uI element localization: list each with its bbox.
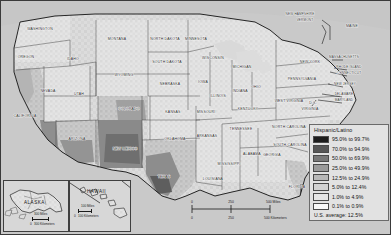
scale-km-500: 500 Kilometers xyxy=(264,216,287,220)
state-label: PENNSYLVANIA xyxy=(288,77,317,81)
legend-swatch xyxy=(313,145,329,153)
state-label: MICHIGAN xyxy=(233,65,252,69)
legend-swatch xyxy=(313,164,329,172)
legend-row: 95.0% to 99.7% xyxy=(313,135,385,145)
state-label: RHODE ISLAND xyxy=(336,65,362,69)
hawaii-inset-label: HAWAII xyxy=(87,189,106,194)
state-label: WASHINGTON xyxy=(27,27,53,31)
alaska-scale-tick-left xyxy=(32,217,33,221)
legend-us-average: U.S. average: 12.5% xyxy=(314,212,385,218)
state-label: MASSACHUSETTS xyxy=(329,55,359,59)
state-label: KENTUCKY xyxy=(238,107,259,111)
hawaii-scale-km: 100 Kilometers xyxy=(78,214,99,218)
state-label: TENNESSEE xyxy=(230,127,253,131)
state-label: NEBRASKA xyxy=(160,82,181,86)
state-label: CALIFORNIA xyxy=(14,114,37,118)
legend-label: 12.5% to 24.9% xyxy=(332,175,369,181)
alaska-scale-miles: 300 Miles xyxy=(34,212,47,216)
legend-title: Hispanic/Latino xyxy=(314,127,385,133)
alaska-scale-km-zero: 0 xyxy=(30,222,32,226)
state-label: NORTH DAKOTA xyxy=(150,37,180,41)
state-label: VERMONT xyxy=(297,18,314,22)
legend-swatch xyxy=(313,174,329,182)
state-label: GEORGIA xyxy=(263,153,281,157)
legend-row: 70.0% to 94.9% xyxy=(313,144,385,154)
state-label: KANSAS xyxy=(165,110,181,114)
state-label: TEXAS xyxy=(158,175,171,179)
state-label: UTAH xyxy=(74,92,84,96)
hawaii-scale-line xyxy=(78,211,92,212)
state-label: MINNESOTA xyxy=(185,37,208,41)
state-label: NEW HAMPSHIRE xyxy=(286,12,315,16)
state-label: IOWA xyxy=(198,80,208,84)
state-label: NEW YORK xyxy=(300,60,321,64)
state-label: SOUTH CAROLINA xyxy=(273,143,307,147)
scale-miles-0: 0 xyxy=(191,200,193,204)
alaska-inset-label: ALASKA xyxy=(24,200,45,205)
hawaii-scale-tick-right xyxy=(91,209,92,213)
legend-swatch xyxy=(313,136,329,144)
state-label: NORTH CAROLINA xyxy=(272,125,306,129)
state-label: MONTANA xyxy=(108,37,127,41)
state-label: ARIZONA xyxy=(69,137,86,141)
legend-swatch xyxy=(313,193,329,201)
state-label: SOUTH DAKOTA xyxy=(152,60,182,64)
legend-row: 0.1% to 0.9% xyxy=(313,202,385,212)
state-label: MISSISSIPPI xyxy=(218,162,241,166)
state-label: VIRGINIA xyxy=(302,107,319,111)
legend-row: 1.0% to 4.9% xyxy=(313,192,385,202)
map-legend: Hispanic/Latino 95.0% to 99.7%70.0% to 9… xyxy=(309,124,389,221)
state-label: COLORADO xyxy=(118,107,140,111)
legend-row: 12.5% to 24.9% xyxy=(313,173,385,183)
state-label: MAINE xyxy=(346,24,358,28)
legend-row: 25.0% to 49.9% xyxy=(313,163,385,173)
hawaii-scale-miles: 100 Miles xyxy=(81,204,94,208)
legend-class-list: 95.0% to 99.7%70.0% to 94.9%50.0% to 69.… xyxy=(313,135,385,212)
state-label: WEST VIRGINIA xyxy=(275,99,304,103)
state-label: NEVADA xyxy=(40,89,56,93)
state-label: IDAHO xyxy=(67,57,79,61)
state-label: DELAWARE xyxy=(335,92,354,96)
state-label: OREGON xyxy=(18,55,35,59)
alaska-scale-line xyxy=(32,219,49,220)
state-label: WISCONSIN xyxy=(202,56,224,60)
state-label: NEW MEXICO xyxy=(113,147,138,151)
scale-miles-500: 500 Miles xyxy=(266,200,281,204)
legend-swatch xyxy=(313,183,329,191)
state-label: INDIANA xyxy=(232,89,248,93)
state-label: OKLAHOMA xyxy=(164,137,186,141)
legend-label: 0.1% to 0.9% xyxy=(332,203,363,209)
hawaii-scale-km-zero: 0 xyxy=(74,214,76,218)
state-label: CONNECTICUT xyxy=(337,71,362,75)
state-label: OHIO xyxy=(251,85,261,89)
state-label: WYOMING xyxy=(115,73,134,77)
state-label: FLORIDA xyxy=(289,185,306,189)
legend-row: 50.0% to 69.9% xyxy=(313,154,385,164)
state-label: ARKANSAS xyxy=(197,134,218,138)
scale-km-0: 0 xyxy=(191,216,193,220)
state-label: LOUISIANA xyxy=(203,177,224,181)
map-screenshot: WASHINGTONOREGONIDAHOMONTANAWYOMINGNORTH… xyxy=(0,0,391,235)
legend-row: 5.0% to 12.4% xyxy=(313,182,385,192)
hawaii-scale-tick-left xyxy=(78,209,79,213)
state-label: D.C. xyxy=(309,101,317,105)
hawaii-inset: HAWAII 100 Miles 0 100 Kilometers xyxy=(69,180,131,232)
scale-km-250: 250 xyxy=(228,216,234,220)
legend-swatch xyxy=(313,155,329,163)
legend-label: 5.0% to 12.4% xyxy=(332,184,366,190)
legend-label: 1.0% to 4.9% xyxy=(332,194,363,200)
legend-label: 95.0% to 99.7% xyxy=(332,136,369,142)
alaska-scale-km: 300 Kilometers xyxy=(34,222,55,226)
alaska-inset: ALASKA 300 Miles 0 300 Kilometers xyxy=(3,180,69,232)
alaska-scale-tick-right xyxy=(48,217,49,221)
state-label: ALABAMA xyxy=(243,152,261,156)
legend-label: 25.0% to 49.9% xyxy=(332,165,369,171)
legend-label: 70.0% to 94.9% xyxy=(332,146,369,152)
state-label: MARYLAND xyxy=(335,98,354,102)
legend-label: 50.0% to 69.9% xyxy=(332,155,369,161)
scale-miles-250: 250 xyxy=(228,200,234,204)
legend-swatch xyxy=(313,203,329,211)
state-label: NEW JERSEY xyxy=(334,82,356,86)
state-label: ILLINOIS xyxy=(210,94,226,98)
state-label: MISSOURI xyxy=(197,110,216,114)
